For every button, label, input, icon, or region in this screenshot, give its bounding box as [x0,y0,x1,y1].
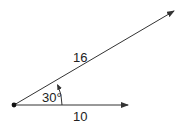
origin-dot [12,103,17,108]
label-16: 16 [73,50,87,65]
vector-diagram: 16 30° 10 [0,0,184,126]
label-10: 10 [73,109,87,124]
vector-16-line [14,11,174,105]
label-angle: 30° [42,90,62,105]
diagram-svg: 16 30° 10 [0,0,184,126]
